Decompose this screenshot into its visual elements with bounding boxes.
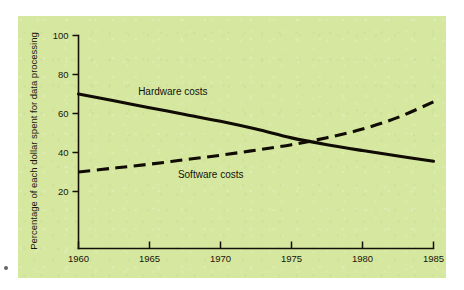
x-tick-label: 1970 <box>210 253 231 264</box>
y-axis-title: Percentage of each dollar spent for data… <box>28 32 39 250</box>
x-tick-label: 1985 <box>423 253 444 264</box>
y-tick-label: 100 <box>53 30 69 41</box>
series-label-software-costs: Software costs <box>178 169 244 180</box>
axes-group <box>79 36 434 249</box>
figure-root: Percentage of each dollar spent for data… <box>0 0 464 290</box>
y-tick-label: 20 <box>58 186 69 197</box>
y-axis-ticks: 20406080100 <box>53 30 79 197</box>
x-tick-label: 1975 <box>281 253 302 264</box>
y-tick-label: 60 <box>58 108 69 119</box>
series-line-software-costs <box>79 102 434 172</box>
x-tick-label: 1965 <box>139 253 160 264</box>
series-label-hardware-costs: Hardware costs <box>138 86 207 97</box>
x-axis-ticks: 196019651970197519801985 <box>68 242 444 264</box>
series-annotations: Hardware costsSoftware costs <box>138 86 243 180</box>
line-chart: Percentage of each dollar spent for data… <box>0 0 464 290</box>
series-group <box>79 94 434 172</box>
y-tick-label: 40 <box>58 147 69 158</box>
x-tick-label: 1980 <box>352 253 373 264</box>
y-tick-label: 80 <box>58 69 69 80</box>
series-line-hardware-costs <box>79 94 434 161</box>
x-tick-label: 1960 <box>68 253 89 264</box>
